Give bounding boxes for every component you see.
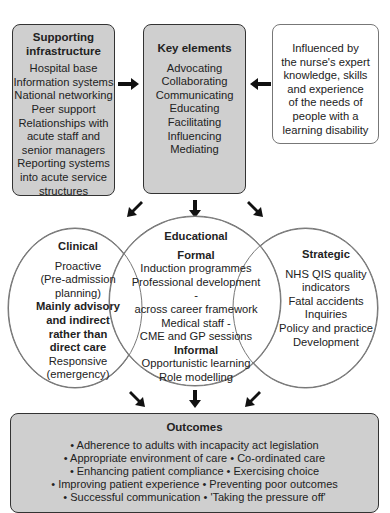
formal-item: Medical staff -	[130, 317, 262, 331]
influenced-line: learning disability	[273, 124, 378, 138]
strategic-content: Strategic NHS QIS quality indicators Fat…	[274, 248, 378, 349]
outcome-line: • Appropriate environment of care • Co-o…	[11, 452, 378, 465]
influenced-line: of the needs of	[273, 96, 378, 110]
key-element-item: Advocating	[144, 62, 245, 76]
informal-item: Opportunistic learning	[130, 357, 262, 371]
formal-item: Professional development -	[130, 276, 262, 303]
key-element-item: Collaborating	[144, 75, 245, 89]
outcome-line: • Enhancing patient compliance • Exercis…	[11, 465, 378, 478]
strategic-line: Policy and practice	[274, 322, 378, 336]
clinical-line: (Pre-admission	[28, 273, 128, 287]
clinical-line: Proactive	[28, 260, 128, 274]
outcome-line: • Improving patient experience • Prevent…	[11, 478, 378, 491]
key-elements-box: Key elements Advocating Collaborating Co…	[143, 24, 246, 194]
formal-item: across career framework	[130, 303, 262, 317]
educational-title: Educational	[130, 230, 262, 244]
supporting-item: structures	[13, 185, 114, 199]
arrow-down-left-icon	[126, 200, 144, 218]
arrow-right-icon	[118, 77, 140, 91]
supporting-item: Peer support	[13, 103, 114, 117]
key-element-item: Influencing	[144, 130, 245, 144]
influenced-line: and experience	[273, 83, 378, 97]
informal-title: Informal	[130, 344, 262, 358]
key-element-item: Facilitating	[144, 116, 245, 130]
arrow-left-icon	[249, 77, 271, 91]
supporting-item: Relationships with	[13, 117, 114, 131]
supporting-item: Hospital base	[13, 62, 114, 76]
supporting-item: acute staff and	[13, 130, 114, 144]
clinical-line: (emergency)	[28, 368, 128, 382]
influenced-line: knowledge, skills	[273, 69, 378, 83]
supporting-infrastructure-box: Supporting infrastructure Hospital base …	[12, 24, 115, 196]
arrow-down-right-icon	[246, 200, 264, 218]
formal-item: CME and GP sessions	[130, 330, 262, 344]
outcomes-title: Outcomes	[11, 421, 378, 434]
supporting-item: Reporting systems	[13, 157, 114, 171]
key-elements-title: Key elements	[144, 42, 245, 56]
clinical-bold-line: rather than	[28, 328, 128, 342]
clinical-title: Clinical	[28, 240, 128, 254]
arrow-down-icon	[186, 390, 204, 408]
supporting-infrastructure-title: Supporting infrastructure	[13, 31, 114, 58]
strategic-line: indicators	[274, 281, 378, 295]
key-element-item: Mediating	[144, 143, 245, 157]
influenced-line: Influenced by	[273, 42, 378, 56]
clinical-content: Clinical Proactive (Pre-admission planni…	[28, 240, 128, 382]
clinical-line: planning)	[28, 287, 128, 301]
educational-content: Educational Formal Induction programmes …	[130, 230, 262, 385]
outcomes-box: Outcomes • Adherence to adults with inca…	[10, 413, 379, 513]
influenced-line: people with a	[273, 110, 378, 124]
key-element-item: Educating	[144, 102, 245, 116]
clinical-line: Responsive	[28, 355, 128, 369]
clinical-bold-line: direct care	[28, 341, 128, 355]
supporting-item: National networking	[13, 89, 114, 103]
outcome-line: • Successful communication • 'Taking the…	[11, 491, 378, 504]
clinical-bold-line: and indirect	[28, 314, 128, 328]
influenced-line: the nurse's expert	[273, 56, 378, 70]
strategic-title: Strategic	[274, 248, 378, 262]
formal-title: Formal	[130, 249, 262, 263]
supporting-item: Information systems	[13, 76, 114, 90]
informal-item: Role modelling	[130, 371, 262, 385]
key-element-item: Communicating	[144, 89, 245, 103]
strategic-line: Inquiries	[274, 308, 378, 322]
arrow-down-left-icon	[244, 390, 262, 408]
arrow-down-right-icon	[128, 390, 146, 408]
outcome-line: • Adherence to adults with incapacity ac…	[11, 439, 378, 452]
influenced-by-box: Influenced by the nurse's expert knowled…	[272, 24, 379, 144]
strategic-line: NHS QIS quality	[274, 268, 378, 282]
supporting-item: into acute service	[13, 171, 114, 185]
supporting-item: senior managers	[13, 144, 114, 158]
strategic-line: Development	[274, 336, 378, 350]
formal-item: Induction programmes	[130, 262, 262, 276]
clinical-bold-line: Mainly advisory	[28, 300, 128, 314]
strategic-line: Fatal accidents	[274, 295, 378, 309]
